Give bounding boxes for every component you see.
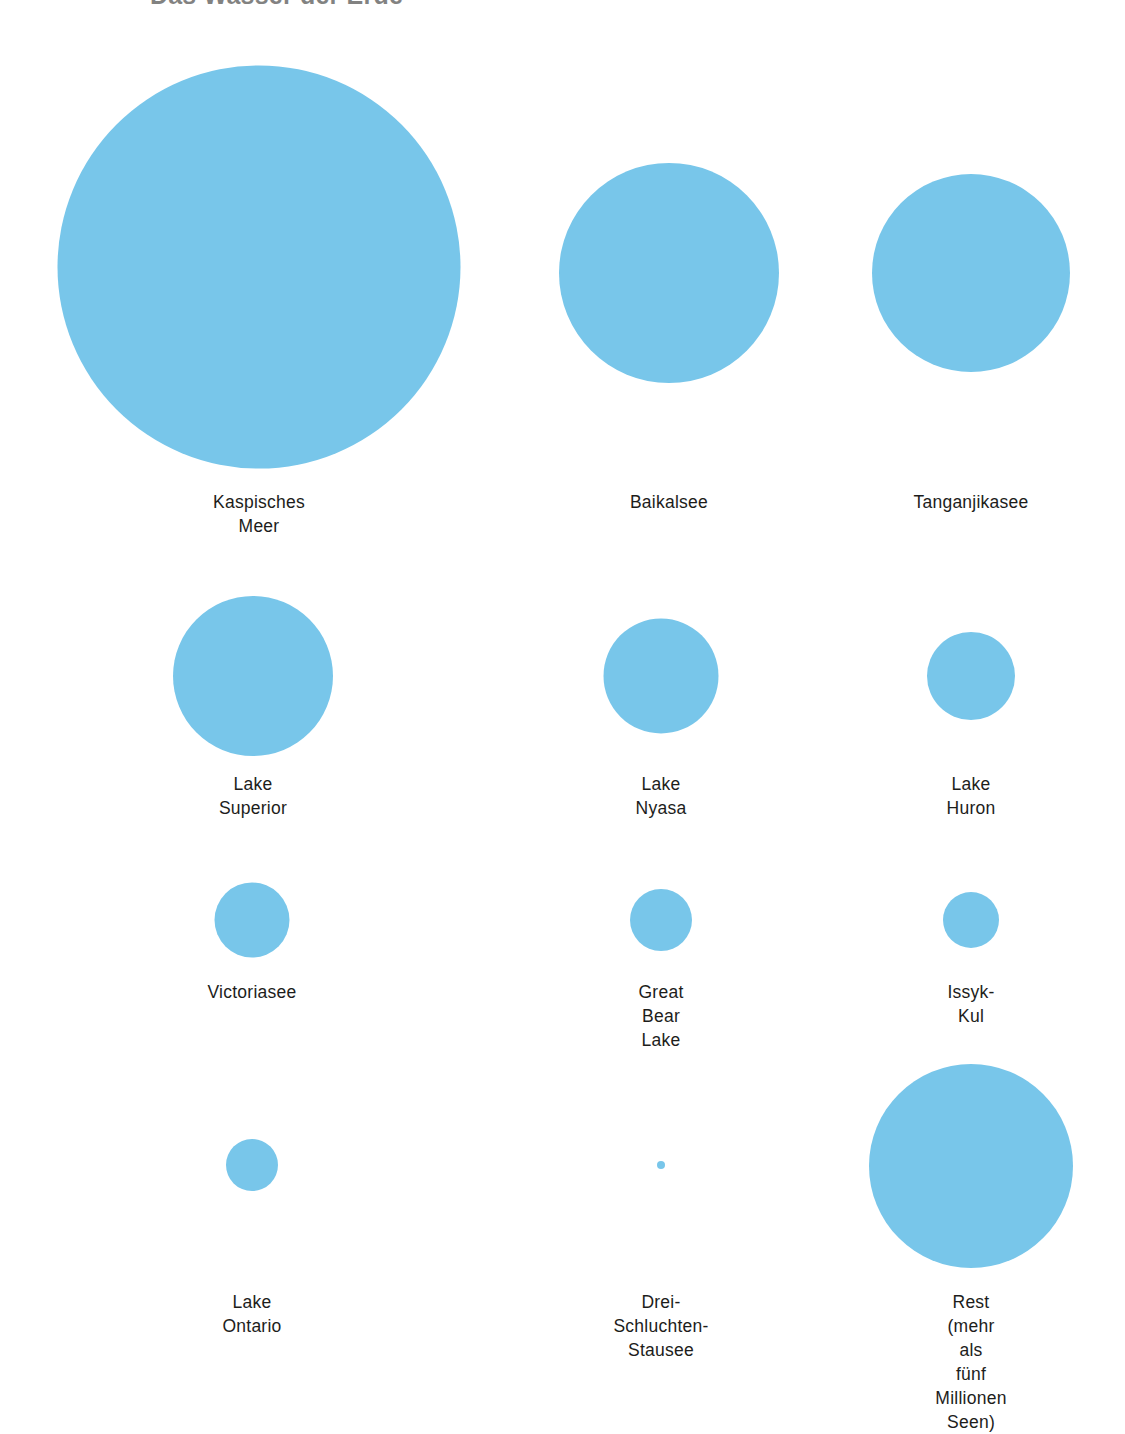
bubble-label: Tanganjikasee	[913, 490, 1028, 514]
bubble-circle[interactable]	[927, 632, 1015, 720]
bubble-circle[interactable]	[559, 163, 779, 383]
bubble-label: Rest (mehr als fünf Millionen Seen)	[935, 1290, 1006, 1434]
bubble-circle[interactable]	[215, 883, 290, 958]
bubble-label: Kaspisches Meer	[213, 490, 305, 538]
bubble-label: Lake Superior	[219, 772, 287, 820]
bubble-label: Issyk-Kul	[947, 980, 994, 1028]
bubble-circle[interactable]	[226, 1139, 278, 1191]
bubble-label: Great Bear Lake	[638, 980, 683, 1052]
bubble-label: Drei-Schluchten-Stausee	[613, 1290, 708, 1362]
bubble-circle[interactable]	[58, 66, 461, 469]
bubble-circle[interactable]	[872, 174, 1070, 372]
bubble-label: Lake Huron	[947, 772, 996, 820]
bubble-circle[interactable]	[630, 889, 692, 951]
bubble-circle[interactable]	[657, 1161, 665, 1169]
bubble-label: Lake Ontario	[222, 1290, 281, 1338]
bubble-label: Victoriasee	[207, 980, 296, 1004]
bubble-label: Baikalsee	[630, 490, 708, 514]
bubble-circle[interactable]	[943, 892, 999, 948]
bubble-label: Lake Nyasa	[636, 772, 687, 820]
bubble-circle[interactable]	[604, 619, 719, 734]
bubble-circle[interactable]	[173, 596, 333, 756]
bubble-circle[interactable]	[869, 1064, 1073, 1268]
